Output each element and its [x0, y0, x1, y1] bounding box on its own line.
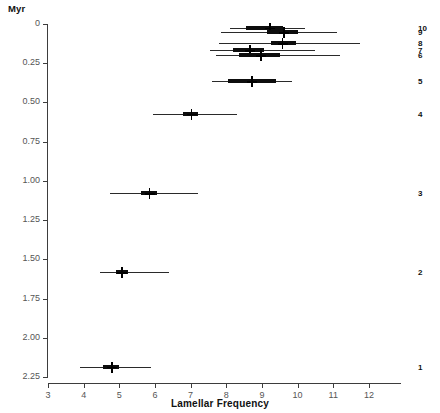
point-marker [191, 114, 193, 115]
point-marker [121, 272, 123, 273]
y-tick-mark [43, 299, 47, 300]
y-tick-mark [43, 259, 47, 260]
chart-container: Myr 00.250.500.751.001.251.501.752.002.2… [0, 0, 440, 413]
point-marker [251, 81, 253, 82]
series-label: 2 [418, 268, 436, 277]
x-tick-mark [155, 384, 156, 388]
x-tick-mark [119, 384, 120, 388]
data-point-row [0, 361, 440, 375]
point-marker [283, 32, 285, 33]
series-label: 6 [418, 51, 436, 60]
series-label: 9 [418, 28, 436, 37]
point-marker [260, 55, 262, 56]
series-label: 4 [418, 110, 436, 119]
y-tick-mark [43, 63, 47, 64]
data-point-row [0, 108, 440, 122]
y-tick-mark [43, 102, 47, 103]
series-label: 1 [418, 363, 436, 372]
x-axis-title: Lamellar Frequency [0, 398, 440, 409]
y-tick-mark [43, 220, 47, 221]
y-tick-mark [43, 142, 47, 143]
y-tick-mark [43, 377, 47, 378]
x-tick-mark [48, 384, 49, 388]
y-tick-mark [43, 338, 47, 339]
x-tick-mark [191, 384, 192, 388]
y-tick-label: 1.50 [0, 253, 40, 263]
x-tick-mark [262, 384, 263, 388]
y-tick-label: 0.50 [0, 96, 40, 106]
y-tick-label: 1.00 [0, 175, 40, 185]
x-tick-mark [226, 384, 227, 388]
y-tick-label: 1.25 [0, 214, 40, 224]
point-marker [149, 193, 151, 194]
data-point-row [0, 75, 440, 89]
error-bar-outer [100, 272, 170, 273]
y-tick-label: 2.00 [0, 332, 40, 342]
y-tick-mark [43, 181, 47, 182]
series-label: 5 [418, 77, 436, 86]
data-point-row [0, 49, 440, 63]
y-axis-title: Myr [8, 3, 26, 14]
x-tick-mark [298, 384, 299, 388]
point-marker [111, 367, 113, 368]
y-tick-label: 1.75 [0, 293, 40, 303]
x-tick-mark [84, 384, 85, 388]
y-tick-label: 0.75 [0, 136, 40, 146]
data-point-row [0, 266, 440, 280]
x-tick-mark [333, 384, 334, 388]
data-point-row [0, 187, 440, 201]
x-tick-mark [369, 384, 370, 388]
x-axis-line [48, 383, 401, 384]
series-label: 3 [418, 189, 436, 198]
